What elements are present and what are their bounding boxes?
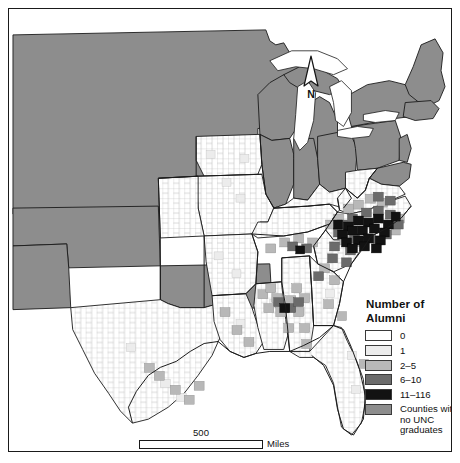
legend-title: Number of Alumni xyxy=(366,298,452,325)
legend-item-2[interactable]: 2–5 xyxy=(365,360,452,372)
legend-swatch-0 xyxy=(365,330,392,341)
legend-title-line-1: Number of xyxy=(366,298,452,312)
legend-swatch-3 xyxy=(365,374,392,385)
north-arrow: N xyxy=(298,55,324,103)
legend-item-5[interactable]: Counties with no UNC graduates xyxy=(365,404,452,436)
scale-bar: 500 Miles xyxy=(131,427,331,452)
legend-swatch-4 xyxy=(365,389,392,400)
scale-bar-rule xyxy=(139,440,263,449)
north-label: N xyxy=(298,88,324,100)
legend-title-line-2: Alumni xyxy=(366,312,452,326)
scale-bar-distance-label: 500 xyxy=(139,427,263,438)
legend-item-0[interactable]: 0 xyxy=(365,330,452,342)
scale-bar-units-label: Miles xyxy=(267,438,289,449)
legend-label-3: 6–10 xyxy=(400,374,421,386)
legend-label-4: 11–116 xyxy=(400,389,431,401)
map-legend: Number of Alumni 0 1 2–5 6–10 11 xyxy=(365,298,452,439)
legend-item-1[interactable]: 1 xyxy=(365,345,452,357)
north-arrow-icon xyxy=(298,55,324,89)
map-figure: N 500 Miles Number of Alumni 0 1 xyxy=(0,0,460,463)
legend-item-4[interactable]: 11–116 xyxy=(365,389,452,401)
legend-label-5: Counties with no UNC graduates xyxy=(400,404,452,436)
legend-swatch-5 xyxy=(365,404,392,415)
legend-item-3[interactable]: 6–10 xyxy=(365,374,452,386)
map-frame: N 500 Miles Number of Alumni 0 1 xyxy=(8,8,452,452)
legend-swatch-2 xyxy=(365,360,392,371)
legend-swatch-1 xyxy=(365,345,392,356)
legend-label-0: 0 xyxy=(400,330,405,342)
legend-label-2: 2–5 xyxy=(400,360,416,372)
legend-label-1: 1 xyxy=(400,345,405,357)
